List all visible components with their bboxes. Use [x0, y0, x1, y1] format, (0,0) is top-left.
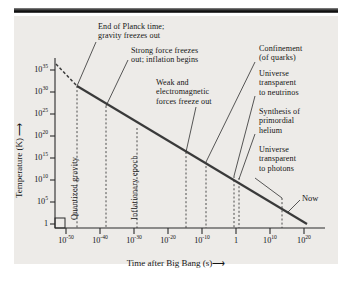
- y-axis-title: Temperature (K) ⟶: [14, 123, 24, 198]
- figure-container: 1035 1030 1025 1020 1015 1010 105 1 10-5…: [0, 0, 352, 282]
- epoch-label-inflationary-epoch: Inflationary epoch: [130, 155, 139, 220]
- annotation-now: Now: [302, 194, 318, 203]
- annotation-confinement-of-quarks: Confinement (of quarks): [259, 44, 302, 63]
- y-tick-label: 105: [10, 197, 48, 206]
- annotation-strong-force-freezes-out: Strong force freezes out; inflation begi…: [131, 46, 198, 65]
- x-axis-arrow: ⟶: [212, 258, 225, 268]
- decorative-top-rule: [14, 8, 338, 13]
- epoch-label-quantized-gravity: Quantized gravity: [70, 157, 79, 220]
- annotation-weak-em-forces-freeze-out: Weak and electromagnetic forces freeze o…: [156, 78, 212, 106]
- x-axis-title: Time after Big Bang (s)⟶: [0, 258, 352, 268]
- y-tick-label: 1025: [10, 109, 48, 118]
- annotation-end-of-planck-time: End of Planck time; gravity freezes out: [98, 22, 164, 41]
- annotation-synthesis-of-primordial-helium: Synthesis of primordial helium: [259, 107, 300, 135]
- y-tick-label: 1: [10, 219, 48, 228]
- annotation-universe-transparent-to-neutrinos: Universe transparent to neutrinos: [259, 69, 299, 97]
- x-tick-label: 1020: [284, 236, 324, 245]
- y-tick-label: 1030: [10, 87, 48, 96]
- annotation-universe-transparent-to-photons: Universe transparent to photons: [259, 145, 296, 173]
- y-tick-label: 1035: [10, 65, 48, 74]
- y-axis-arrow: ⟶: [14, 123, 24, 136]
